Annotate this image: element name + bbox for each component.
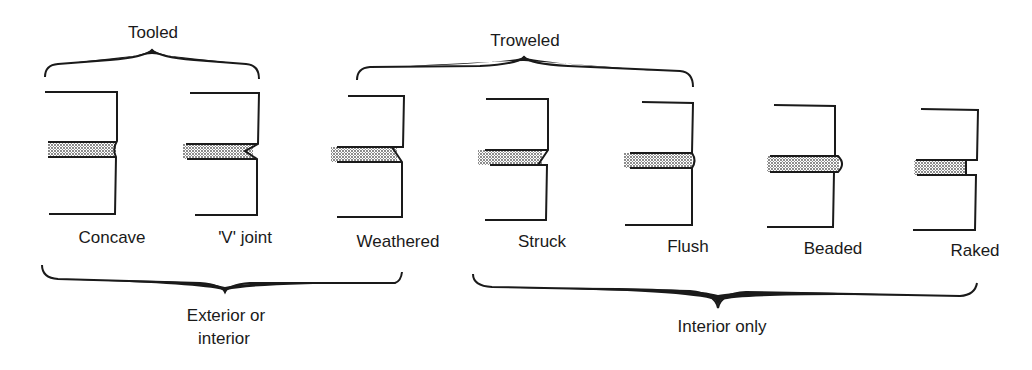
joint-label-concave: Concave [78, 227, 145, 248]
joint-label-raked: Raked [950, 240, 999, 261]
brace-troweled [357, 56, 693, 87]
group-label-interior-only: Interior only [678, 316, 767, 337]
brace-interior-only [473, 274, 977, 308]
joint-flush [624, 102, 695, 225]
joint-label-beaded: Beaded [804, 238, 863, 259]
group-label-tooled: Tooled [128, 22, 178, 43]
brace-tooled [45, 49, 259, 79]
joint-v [183, 93, 259, 215]
joint-raked [913, 109, 978, 230]
joint-label-v-joint: 'V' joint [218, 227, 272, 248]
joint-concave [45, 92, 117, 214]
brace-exterior-or-interior [42, 265, 402, 293]
mortar-joint-diagram [0, 0, 1032, 370]
group-label-exterior-or-interior-line2: interior [198, 328, 250, 349]
joint-weathered [331, 96, 404, 217]
group-label-exterior-or-interior-line1: Exterior or [187, 305, 265, 326]
group-label-troweled: Troweled [490, 30, 559, 51]
joint-label-flush: Flush [667, 236, 709, 257]
joint-struck [478, 99, 548, 220]
joint-label-struck: Struck [518, 231, 566, 252]
joint-beaded [767, 105, 842, 227]
joint-label-weathered: Weathered [357, 231, 440, 252]
